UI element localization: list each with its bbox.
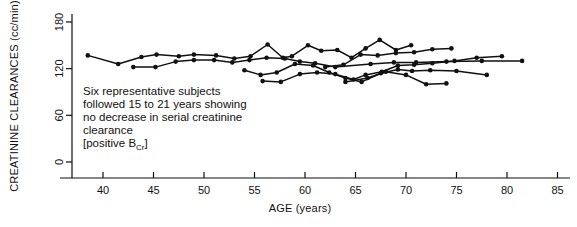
y-tick-label-0: 0 [53,159,65,165]
data-point [283,56,288,61]
data-point [298,59,303,64]
annotation-bcr-suffix: ] [145,137,148,149]
data-point [131,65,136,70]
data-point [452,59,457,64]
data-point [412,63,417,68]
data-point [153,65,158,70]
data-point [377,38,382,43]
annotation-bcr-prefix: [positive B [83,137,136,149]
y-tick-label-120: 120 [53,59,65,77]
y-tick-label-180: 180 [53,13,65,31]
data-point [116,62,121,67]
x-tick-label-75: 75 [450,184,462,196]
data-point [449,46,454,51]
data-point [311,63,316,68]
data-point [260,79,265,84]
data-point [341,63,346,68]
x-axis-ticks [103,172,558,178]
data-point [265,42,270,47]
data-point [359,80,364,85]
data-point [293,62,298,67]
data-point [343,80,348,85]
x-tick-label-45: 45 [147,184,159,196]
y-axis-ticks [66,22,72,162]
annotation-bcr-subscript: Cr [136,143,145,152]
annotation-line-2: followed 15 to 21 years showing [83,98,247,110]
data-point [412,50,417,55]
annotation-line-4: clearance [83,124,133,136]
data-point [430,61,435,66]
data-series-layer [86,38,525,87]
data-point [392,60,397,65]
data-point [274,70,279,75]
data-point [86,53,91,58]
x-tick-label-70: 70 [400,184,412,196]
data-point [319,48,324,53]
data-point [363,46,368,51]
data-point [323,65,328,70]
data-point [333,72,338,77]
data-point [298,72,303,77]
data-point [230,60,235,65]
data-point [173,59,178,64]
data-point [500,54,505,59]
data-point [454,69,459,74]
data-point [409,43,414,48]
data-point [242,68,247,73]
x-tick-label-55: 55 [248,184,260,196]
x-axis-title: AGE (years) [269,202,332,214]
annotation-line-1: Six representative subjects [83,85,221,97]
series-subject-4 [260,54,504,84]
data-point [444,81,449,86]
data-point [306,43,311,48]
x-tick-label-50: 50 [198,184,210,196]
series-subject-5 [323,46,454,69]
chart-figure: 060120180 CREATININE CLEARANCES (cc/min)… [0,0,577,227]
data-point [264,55,269,60]
data-point [177,54,182,59]
data-point [279,80,284,85]
data-point [404,73,409,78]
data-point [396,63,401,68]
data-point [154,52,159,57]
data-point [430,47,435,52]
y-axis-title: CREATININE CLEARANCES (cc/min) [8,0,20,192]
data-point [290,54,295,59]
data-point [480,59,485,64]
data-point [474,55,479,60]
data-point [139,55,144,60]
y-axis-tick-labels: 060120180 [53,13,65,165]
data-point [248,54,253,59]
data-point [335,48,340,53]
data-point [365,76,370,81]
y-tick-label-60: 60 [53,109,65,121]
data-point [428,68,433,73]
data-point [375,53,380,58]
data-point [212,58,217,63]
data-point [368,62,373,67]
y-axis: 060120180 CREATININE CLEARANCES (cc/min) [8,0,72,192]
data-point [192,58,197,63]
x-axis-tick-labels: 40455055606570758085 [97,184,564,196]
data-point [384,70,389,75]
x-tick-label-65: 65 [349,184,361,196]
data-point [232,56,237,61]
creatinine-clearance-line-chart: 060120180 CREATININE CLEARANCES (cc/min)… [0,0,577,227]
data-point [192,52,197,57]
x-tick-label-80: 80 [501,184,513,196]
data-point [394,51,399,56]
data-point [247,58,252,63]
data-point [424,82,429,87]
x-tick-label-40: 40 [97,184,109,196]
data-point [358,52,363,57]
data-point [485,73,490,78]
data-point [258,73,263,78]
x-axis: 40455055606570758085 AGE (years) [60,172,570,214]
data-point [520,59,525,64]
data-point [410,69,415,74]
annotation-bcr-line: [positive BCr] [83,137,148,152]
annotation-line-3: no decrease in serial creatinine [83,111,242,123]
x-tick-label-85: 85 [551,184,563,196]
x-tick-label-60: 60 [299,184,311,196]
data-point [315,70,320,75]
